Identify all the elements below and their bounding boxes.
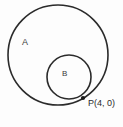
tangent-point-dot [81, 96, 85, 100]
tangent-point-label: P(4, 0) [88, 99, 115, 108]
circle-a-outline [8, 5, 108, 105]
circle-b-label: B [62, 70, 67, 78]
circle-a-label: A [22, 38, 28, 47]
geometry-diagram: A B P(4, 0) [0, 0, 123, 127]
circle-b-outline [47, 55, 91, 99]
